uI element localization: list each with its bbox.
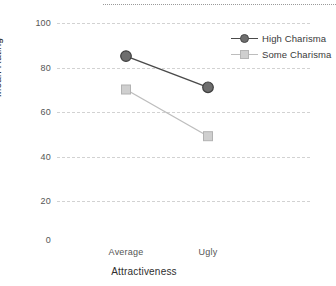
x-tick-average: Average bbox=[109, 247, 144, 257]
legend-marker-square-icon bbox=[240, 50, 249, 59]
point-high-charisma-average bbox=[121, 51, 132, 62]
x-tick-ugly: Ugly bbox=[199, 247, 218, 257]
legend-item-high-charisma[interactable]: High Charisma bbox=[231, 33, 331, 44]
legend-key-circle-icon bbox=[231, 33, 258, 44]
legend-label-some-charisma: Some Charisma bbox=[262, 49, 331, 60]
series-high-charisma-line bbox=[126, 56, 208, 87]
legend-marker-circle-icon bbox=[240, 34, 249, 43]
x-axis-title-text: Attractiveness bbox=[111, 266, 177, 277]
series-some-charisma-line bbox=[126, 90, 208, 137]
legend-label-high-charisma: High Charisma bbox=[262, 33, 326, 44]
line-chart-figure: 100 80 60 40 20 0 Mean Rating Average Ug… bbox=[0, 0, 336, 286]
point-some-charisma-ugly bbox=[204, 132, 213, 141]
x-axis-title: Attractiveness bbox=[0, 266, 336, 277]
legend: High Charisma Some Charisma bbox=[231, 33, 331, 60]
legend-key-square-icon bbox=[231, 49, 258, 60]
legend-item-some-charisma[interactable]: Some Charisma bbox=[231, 49, 331, 60]
point-some-charisma-average bbox=[122, 85, 131, 94]
point-high-charisma-ugly bbox=[203, 82, 214, 93]
